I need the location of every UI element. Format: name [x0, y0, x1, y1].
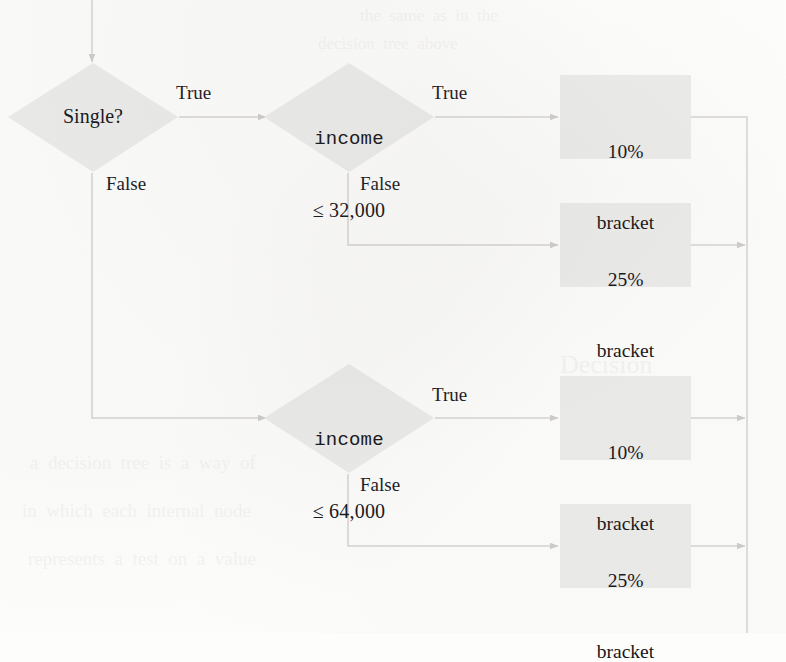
node-single-shape[interactable]	[8, 63, 178, 172]
edge-income-bottom-false	[348, 474, 558, 546]
node-bracket-25-top-shape[interactable]	[560, 203, 691, 287]
node-income-64000-shape[interactable]	[264, 364, 434, 473]
node-bracket-10-top-shape[interactable]	[560, 75, 691, 159]
node-bracket-25-bottom-line2: bracket	[560, 640, 691, 662]
edge-leaf-10-top-out	[691, 117, 747, 633]
node-bracket-25-bottom-shape[interactable]	[560, 504, 691, 588]
edge-income-top-false	[348, 173, 558, 245]
node-bracket-10-bottom-shape[interactable]	[560, 376, 691, 460]
node-income-32000-shape[interactable]	[264, 63, 434, 172]
edge-single-false	[92, 173, 266, 418]
